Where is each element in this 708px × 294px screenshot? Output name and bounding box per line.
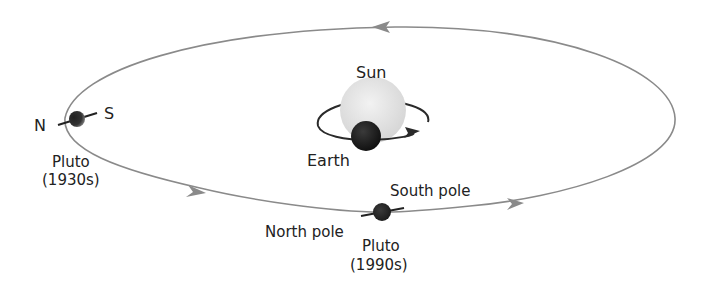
pluto-orbit-diagram xyxy=(0,0,708,294)
sun-label: Sun xyxy=(356,64,386,82)
pluto-1930s-icon xyxy=(69,111,85,127)
pluto-1990s-date-label: (1990s) xyxy=(350,256,408,274)
pluto-1930s-date-label: (1930s) xyxy=(42,171,100,189)
pluto-1990s-name-label: Pluto xyxy=(362,237,400,255)
pluto-1990s-south-pole-label: South pole xyxy=(390,182,470,200)
earth-icon xyxy=(351,121,381,151)
pluto-1990s-north-pole-label: North pole xyxy=(265,223,344,241)
pluto-1930s-north-label: N xyxy=(34,117,46,135)
earth-label: Earth xyxy=(307,152,350,170)
pluto-1930s xyxy=(58,111,97,127)
pluto-1930s-name-label: Pluto xyxy=(52,153,90,171)
earth-orbit-arrow-icon xyxy=(404,127,420,138)
pluto-1930s-south-label: S xyxy=(104,105,114,123)
pluto-1990s-icon xyxy=(373,203,391,221)
